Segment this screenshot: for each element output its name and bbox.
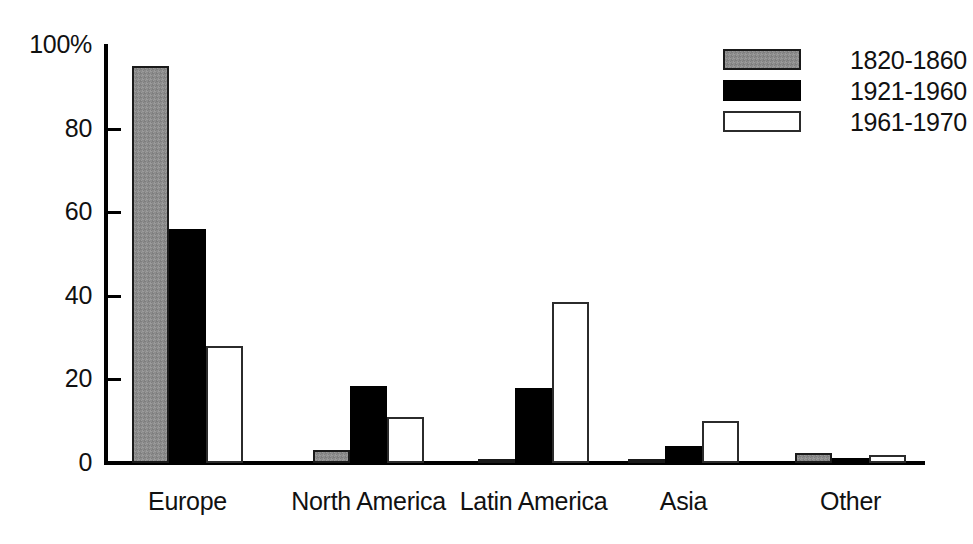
legend-label: 1961-1970 [850, 108, 967, 137]
y-axis-tick-label: 60 [0, 199, 92, 224]
x-axis-label-other: Other [731, 487, 971, 515]
legend-label: 1921-1960 [850, 77, 967, 106]
y-axis-tick-label: 40 [0, 283, 92, 308]
bar-europe-1820-1860 [132, 66, 169, 463]
bar-europe-1921-1960 [169, 229, 206, 463]
bar-latin-america-1961-1970 [552, 302, 589, 463]
plot-area [106, 45, 925, 463]
bar-latin-america-1921-1960 [515, 388, 552, 463]
bar-north-america-1921-1960 [350, 386, 387, 463]
legend-swatch-icon [723, 49, 801, 70]
bar-europe-1961-1970 [206, 346, 243, 463]
y-axis-tick-label: 100% [0, 32, 92, 57]
legend-swatch-icon [723, 80, 801, 101]
bar-asia-1820-1860 [628, 459, 665, 463]
y-axis-tick-label: 80 [0, 116, 92, 141]
y-axis-tick-label: 0 [0, 450, 92, 475]
bar-asia-1921-1960 [665, 446, 702, 463]
legend-swatch-icon [723, 111, 801, 132]
bar-other-1921-1960 [832, 458, 869, 463]
bar-other-1820-1860 [795, 453, 832, 463]
bar-latin-america-1820-1860 [478, 459, 515, 463]
bar-other-1961-1970 [869, 455, 906, 463]
y-axis-tick-label: 20 [0, 366, 92, 391]
bar-asia-1961-1970 [702, 421, 739, 463]
legend-label: 1820-1860 [850, 46, 967, 75]
bar-chart: 020406080100% EuropeNorth AmericaLatin A… [0, 0, 973, 544]
bar-north-america-1961-1970 [387, 417, 424, 463]
bar-north-america-1820-1860 [313, 450, 350, 463]
